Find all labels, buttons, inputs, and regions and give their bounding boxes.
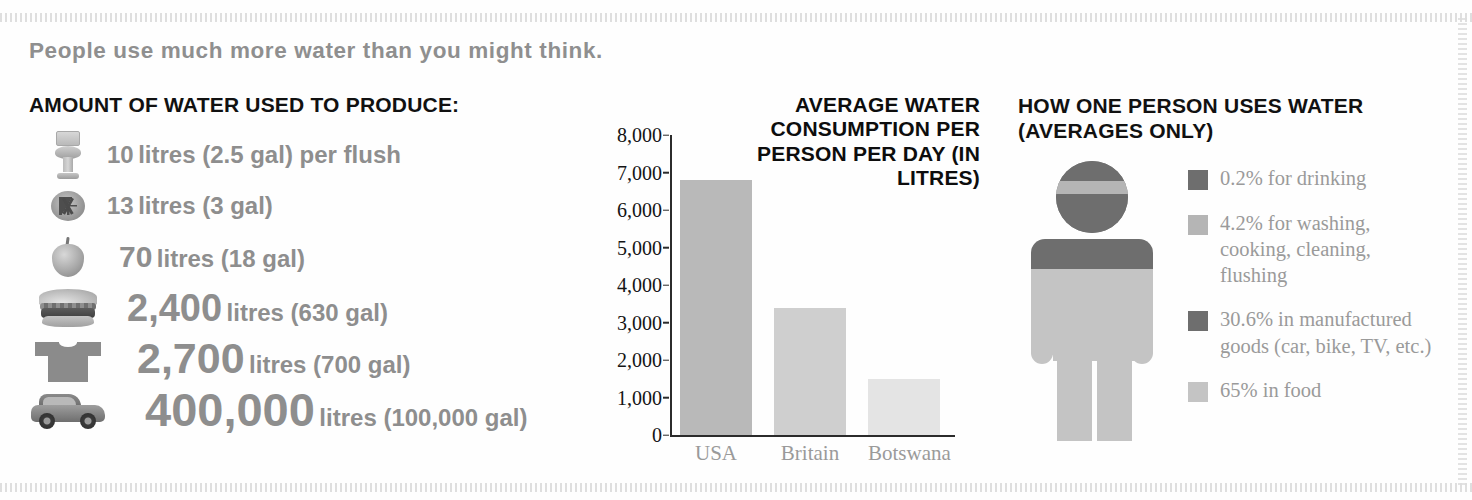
list-item-text: 10 litres (2.5 gal) per flush (107, 143, 401, 167)
list-item: 2,400 litres (630 gal) (29, 282, 609, 333)
list-item-text: 2,700 litres (700 gal) (107, 337, 410, 380)
legend-item: 4.2% for washing, cooking, cleaning, flu… (1188, 210, 1443, 289)
item-unit: litres (3 gal) (138, 192, 273, 219)
page-headline: People use much more water than you migh… (29, 38, 603, 64)
x-axis-tick-label: USA (680, 441, 752, 466)
y-axis-tick-mark (663, 359, 669, 361)
legend-item: 65% in food (1188, 377, 1443, 403)
item-number: 70 (119, 240, 152, 273)
water-usage-breakdown-panel: HOW ONE PERSON USES WATER (AVERAGES ONLY… (1018, 93, 1458, 441)
y-axis-tick-mark (663, 397, 669, 399)
list-item: 2,700 litres (700 gal) (29, 333, 609, 384)
segment-manufactured-goods (1031, 239, 1153, 271)
y-axis-tick-mark (663, 247, 669, 249)
list-item: 400,000 litres (100,000 gal) (29, 384, 609, 435)
item-number: 2,400 (127, 287, 222, 329)
toilet-icon (29, 129, 107, 180)
apple-icon (29, 231, 107, 282)
water-consumption-chart-panel: AVERAGE WATER CONSUMPTION PER PERSON PER… (612, 93, 1002, 483)
bar-chart: 8,0007,0006,0005,0004,0003,0002,0001,000… (612, 135, 962, 483)
segment-washing (1056, 181, 1128, 194)
x-axis-tick-label: Botswana (868, 441, 940, 466)
y-axis-tick-label: 7,000 (617, 161, 662, 184)
perforation-bottom-divider (0, 483, 1472, 492)
list-item-text: 400,000 litres (100,000 gal) (107, 386, 527, 433)
legend-label: 65% in food (1220, 377, 1321, 403)
item-unit: litres (18 gal) (157, 245, 305, 272)
item-unit: litres (700 gal) (249, 351, 410, 378)
amount-of-water-panel: AMOUNT OF WATER USED TO PRODUCE: 10 litr… (29, 93, 609, 435)
segment-drinking (1056, 161, 1128, 181)
list-item-text: 70 litres (18 gal) (107, 242, 305, 272)
legend-label: 0.2% for drinking (1220, 165, 1366, 191)
legend-swatch-icon (1188, 170, 1208, 190)
y-axis-tick-label: 8,000 (617, 124, 662, 147)
y-axis-tick-mark (663, 284, 669, 286)
y-axis-tick-labels: 8,0007,0006,0005,0004,0003,0002,0001,000… (612, 135, 670, 435)
y-axis-tick-mark (663, 172, 669, 174)
x-axis-line (670, 435, 955, 437)
legend-swatch-icon (1188, 382, 1208, 402)
legend-item: 30.6% in manufactured goods (car, bike, … (1188, 306, 1443, 358)
item-unit: litres (2.5 gal) per flush (138, 141, 401, 168)
tomato-icon (29, 180, 107, 231)
product-water-list: 10 litres (2.5 gal) per flush 13 litres … (29, 129, 609, 435)
right-panel-title: HOW ONE PERSON USES WATER (AVERAGES ONLY… (1018, 93, 1458, 143)
person-pictogram (1018, 161, 1170, 441)
y-axis-tick-mark (663, 209, 669, 211)
list-item-text: 2,400 litres (630 gal) (107, 289, 388, 327)
x-axis-tick-label: Britain (774, 441, 846, 466)
y-axis-tick-label: 5,000 (617, 236, 662, 259)
item-number: 13 (107, 192, 134, 219)
pictogram-leg-right (1097, 341, 1132, 441)
bar-botswana (868, 379, 940, 435)
list-item: 13 litres (3 gal) (29, 180, 609, 231)
x-axis-tick-labels: USABritainBotswana (670, 439, 960, 473)
item-unit: litres (100,000 gal) (319, 404, 527, 431)
segment-head-lower (1056, 194, 1128, 233)
burger-icon (29, 282, 107, 333)
item-number: 2,700 (137, 334, 245, 382)
y-axis-tick-label: 1,000 (617, 386, 662, 409)
y-axis-tick-label: 3,000 (617, 311, 662, 334)
perforation-right-divider (1458, 18, 1467, 488)
y-axis-tick-label: 6,000 (617, 199, 662, 222)
y-axis-tick-label: 4,000 (617, 274, 662, 297)
pictogram-arm-left (1031, 269, 1053, 364)
bar-usa (680, 180, 752, 435)
legend-item: 0.2% for drinking (1188, 165, 1443, 191)
y-axis-tick-label: 0 (652, 424, 662, 447)
list-item: 10 litres (2.5 gal) per flush (29, 129, 609, 180)
tshirt-icon (29, 333, 107, 384)
legend-label: 4.2% for washing, cooking, cleaning, flu… (1220, 210, 1443, 289)
car-icon (29, 384, 107, 435)
legend-swatch-icon (1188, 311, 1208, 331)
item-unit: litres (630 gal) (227, 299, 388, 326)
item-number: 400,000 (145, 383, 315, 436)
left-panel-title: AMOUNT OF WATER USED TO PRODUCE: (29, 93, 609, 117)
pictogram-leg-left (1057, 341, 1092, 441)
pictogram-and-legend: 0.2% for drinking4.2% for washing, cooki… (1018, 161, 1458, 441)
list-item-text: 13 litres (3 gal) (107, 194, 273, 218)
item-number: 10 (107, 141, 134, 168)
y-axis-tick-mark (663, 434, 669, 436)
y-axis-tick-mark (663, 134, 669, 136)
legend-label: 30.6% in manufactured goods (car, bike, … (1220, 306, 1443, 358)
bar-britain (774, 308, 846, 436)
infographic-page: People use much more water than you migh… (0, 0, 1472, 500)
bar-series (672, 135, 955, 435)
usage-legend: 0.2% for drinking4.2% for washing, cooki… (1188, 161, 1443, 441)
y-axis-tick-mark (663, 322, 669, 324)
y-axis-tick-label: 2,000 (617, 349, 662, 372)
list-item: 70 litres (18 gal) (29, 231, 609, 282)
pictogram-head (1056, 161, 1128, 233)
perforation-top-divider (0, 13, 1472, 22)
legend-swatch-icon (1188, 215, 1208, 235)
